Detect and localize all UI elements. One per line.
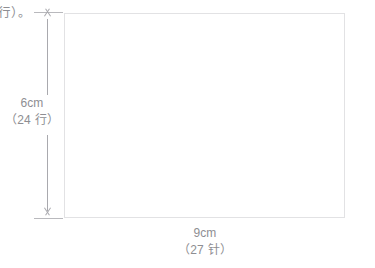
vertical-arrow-shaft-lower [47, 135, 48, 211]
vertical-tick-bottom [34, 218, 63, 219]
vertical-dimension-label: 6cm （24 行） [0, 95, 64, 129]
vertical-dimension-value: 6cm [0, 95, 64, 112]
vertical-dimension-sub-value: （24 行） [0, 112, 64, 129]
horizontal-dimension-value: 9cm [62, 225, 348, 242]
runin-text: 行）。 [0, 5, 32, 21]
horizontal-dimension-label: 9cm （27 针） [62, 225, 348, 259]
arrow-head-down-icon [42, 207, 53, 218]
swatch-dimension-diagram: 行）。 6cm （24 行） 9cm （27 针） [0, 0, 375, 268]
swatch-rectangle [64, 13, 345, 218]
vertical-arrow-shaft-upper [47, 19, 48, 95]
horizontal-dimension: 9cm （27 针） [62, 226, 348, 250]
horizontal-dimension-sub-value: （27 针） [62, 242, 348, 259]
